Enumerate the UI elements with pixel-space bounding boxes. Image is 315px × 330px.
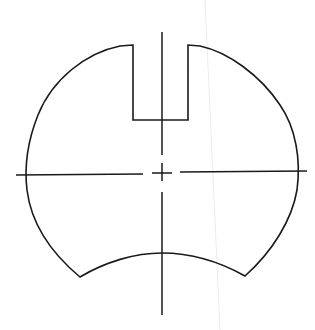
- center-mark-icon: [161, 172, 163, 174]
- part-drawing: [0, 0, 315, 330]
